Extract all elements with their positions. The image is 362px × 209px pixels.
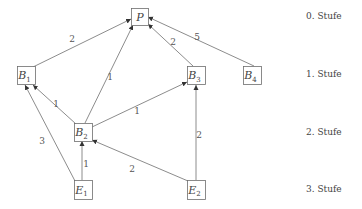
edge-weight-label: 2 bbox=[69, 34, 75, 44]
edge-b2-to-b1: 1 bbox=[33, 85, 76, 124]
edge-weight-label: 1 bbox=[83, 159, 89, 169]
arrow-line bbox=[25, 85, 75, 181]
level-label-1: 1. Stufe bbox=[306, 69, 342, 79]
level-label-2: 2. Stufe bbox=[306, 127, 342, 137]
node-b4: B4 bbox=[243, 67, 261, 85]
node-b2: B2 bbox=[74, 124, 92, 142]
edge-weight-label: 1 bbox=[53, 99, 59, 109]
arrow-line bbox=[148, 17, 254, 66]
edge-weight-label: 1 bbox=[134, 106, 140, 116]
edge-b2-to-b3: 1 bbox=[92, 82, 187, 127]
node-p: P bbox=[132, 9, 149, 26]
edge-weight-label: 5 bbox=[194, 32, 200, 42]
edge-e2-to-b2: 2 bbox=[92, 140, 188, 181]
edge-b2-to-p: 1 bbox=[85, 25, 133, 123]
weighted-graph-diagram: 2125131122 PB1B3B4B2E1E2 bbox=[0, 0, 362, 209]
edge-b3-to-p: 2 bbox=[148, 24, 193, 66]
arrow-line bbox=[92, 140, 188, 181]
edge-weight-label: 2 bbox=[129, 164, 135, 174]
edge-e1-to-b1: 3 bbox=[25, 85, 75, 181]
edge-weight-label: 2 bbox=[196, 130, 202, 140]
node-b3: B3 bbox=[187, 67, 205, 85]
edge-weight-label: 3 bbox=[39, 136, 45, 146]
edge-weight-label: 1 bbox=[107, 72, 113, 82]
arrow-line bbox=[92, 82, 187, 127]
node-label: P bbox=[135, 11, 144, 24]
edge-weight-label: 2 bbox=[170, 37, 176, 47]
edge-b4-to-p: 5 bbox=[148, 17, 254, 66]
level-label-0: 0. Stufe bbox=[306, 11, 342, 21]
level-label-3: 3. Stufe bbox=[306, 184, 342, 194]
edge-e1-to-b2: 1 bbox=[82, 141, 89, 180]
node-e1: E1 bbox=[74, 181, 92, 200]
node-e2: E2 bbox=[187, 181, 205, 200]
edges: 2125131122 bbox=[25, 17, 254, 181]
node-b1: B1 bbox=[17, 67, 35, 85]
edge-e2-to-b3: 2 bbox=[196, 85, 202, 180]
